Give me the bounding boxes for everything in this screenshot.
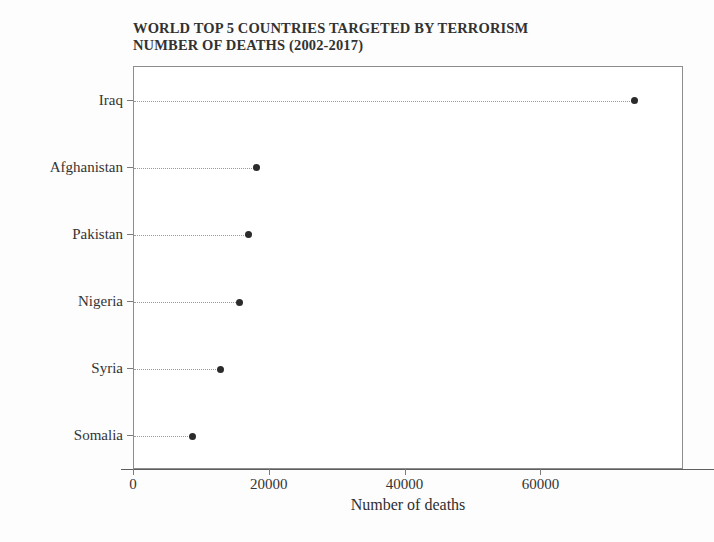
x-tick-mark	[269, 469, 270, 475]
chart-title-line-2: NUMBER OF DEATHS (2002-2017)	[133, 37, 693, 54]
data-point-marker[interactable]	[245, 231, 252, 238]
y-tick-label-pakistan: Pakistan	[72, 225, 123, 242]
y-tick-label-afghanistan: Afghanistan	[50, 158, 123, 175]
x-tick-mark	[133, 469, 134, 475]
chart-figure: WORLD TOP 5 COUNTRIES TARGETED BY TERROR…	[0, 0, 714, 542]
x-tick-mark	[540, 469, 541, 475]
data-point-marker[interactable]	[631, 97, 638, 104]
x-tick-label-60000: 60000	[522, 476, 560, 493]
y-tick-label-iraq: Iraq	[99, 91, 123, 108]
data-point-marker[interactable]	[217, 366, 224, 373]
leader-line	[134, 369, 220, 370]
leader-line	[134, 302, 240, 303]
x-tick-mark	[405, 469, 406, 475]
data-point-marker[interactable]	[236, 299, 243, 306]
data-point-marker[interactable]	[189, 433, 196, 440]
plot-area	[133, 66, 683, 469]
data-point-marker[interactable]	[253, 164, 260, 171]
chart-title-line-1: WORLD TOP 5 COUNTRIES TARGETED BY TERROR…	[133, 20, 693, 37]
x-tick-label-40000: 40000	[386, 476, 424, 493]
leader-line	[134, 235, 248, 236]
plot-inner	[134, 67, 682, 468]
y-axis: IraqAfghanistanPakistanNigeriaSyriaSomal…	[0, 66, 133, 469]
leader-line	[134, 436, 192, 437]
leader-line	[134, 101, 634, 102]
y-tick-label-nigeria: Nigeria	[78, 293, 123, 310]
leader-line	[134, 168, 256, 169]
y-tick-label-somalia: Somalia	[74, 427, 123, 444]
chart-title: WORLD TOP 5 COUNTRIES TARGETED BY TERROR…	[133, 20, 693, 54]
x-tick-label-20000: 20000	[250, 476, 288, 493]
y-tick-label-syria: Syria	[91, 360, 123, 377]
x-tick-label-0: 0	[129, 476, 137, 493]
x-axis-label: Number of deaths	[133, 496, 683, 514]
